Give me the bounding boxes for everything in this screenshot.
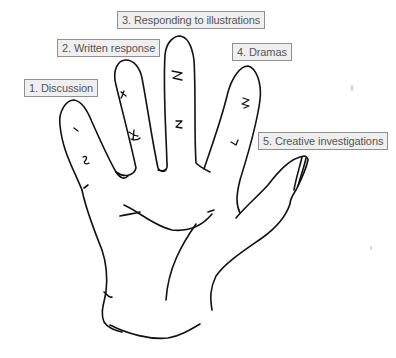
middle-finger-mark-1: [172, 71, 182, 80]
label-discussion: 1. Discussion: [24, 79, 98, 97]
index-finger-mark-1: [242, 98, 249, 108]
index-finger-mark-2: [231, 140, 238, 145]
little-finger-mark-1: [74, 128, 78, 131]
label-written-response: 2. Written response: [57, 39, 160, 57]
label-dramas: 4. Dramas: [232, 43, 292, 61]
smudge-mark: [370, 246, 372, 250]
smudge-mark: [351, 85, 354, 91]
label-creative-investigations: 5. Creative investigations: [258, 132, 388, 150]
little-finger-mark-2: [83, 156, 89, 163]
middle-finger-mark-2: [176, 121, 182, 128]
ring-finger-mark-2: [129, 130, 140, 140]
ring-finger-mark-1: [121, 91, 126, 98]
label-responding-to-illustrations: 3. Responding to illustrations: [117, 11, 265, 29]
hand-diagram: 1. Discussion 2. Written response 3. Res…: [0, 0, 396, 358]
